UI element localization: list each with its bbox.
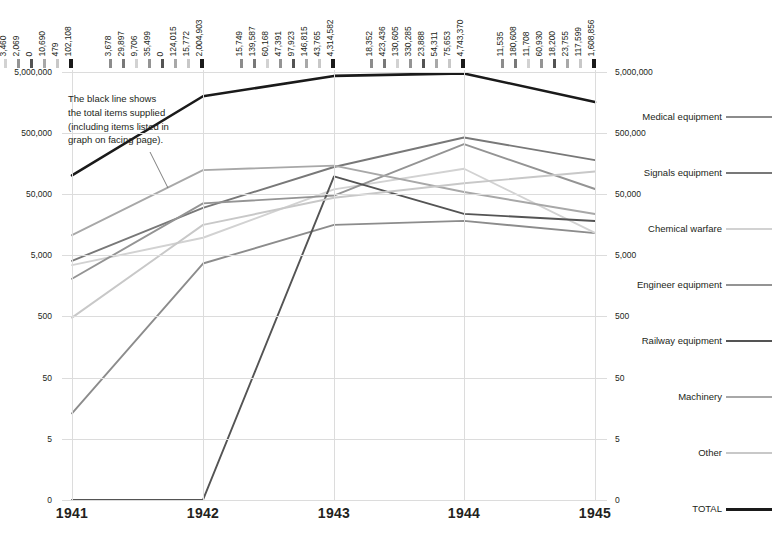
value-tick: [592, 59, 596, 68]
value-tick: [279, 59, 282, 68]
legend-swatch: [726, 396, 772, 398]
legend-label: TOTAL: [692, 502, 722, 516]
value-tick: [409, 59, 412, 68]
value-tick: [56, 59, 59, 68]
value-text: 2,069: [11, 35, 20, 56]
value-tick: [187, 59, 190, 68]
legend-item-railway-equipment[interactable]: Railway equipment: [612, 334, 774, 348]
value-text: 15,772: [181, 31, 190, 56]
year-label-1943: 1943: [318, 505, 350, 521]
y-axis-label-left: 5: [0, 434, 52, 444]
value-text: 0: [155, 51, 164, 56]
legend-item-other[interactable]: Other: [612, 446, 774, 460]
legend-item-machinery[interactable]: Machinery: [612, 390, 774, 404]
legend-label: Medical equipment: [642, 110, 722, 124]
value-tick: [579, 59, 582, 68]
value-tick: [69, 59, 73, 68]
legend-swatch: [726, 452, 772, 454]
value-cell: 102,108: [65, 0, 78, 70]
value-text: 15,749: [234, 31, 243, 56]
y-axis-label-left: 0: [0, 495, 52, 505]
legend-item-medical-equipment[interactable]: Medical equipment: [612, 110, 774, 124]
value-text: 23,755: [560, 31, 569, 56]
value-text: 117,599: [573, 27, 582, 56]
value-tick: [109, 59, 112, 68]
value-text: 180,608: [508, 26, 517, 56]
year-label-1941: 1941: [56, 505, 88, 521]
value-tick: [566, 59, 569, 68]
y-axis-label-left: 50,000: [0, 189, 52, 199]
legend-swatch: [726, 284, 772, 286]
legend-swatch: [726, 172, 772, 174]
legend-item-chemical-warfare[interactable]: Chemical warfare: [612, 222, 774, 236]
value-text: 97,923: [286, 31, 295, 56]
value-tick: [383, 59, 386, 68]
value-text: 43,765: [312, 31, 321, 56]
legend-label: Signals equipment: [644, 166, 722, 180]
value-text: 479: [50, 42, 59, 56]
value-text: 9,706: [129, 35, 138, 56]
y-axis-label-left: 5,000: [0, 250, 52, 260]
value-tick: [540, 59, 543, 68]
x-gridline: [595, 70, 596, 500]
y-axis-label-left: 500,000: [0, 128, 52, 138]
value-cell: 2,069: [13, 0, 26, 70]
value-tick: [174, 59, 177, 68]
value-column-1945: 11,535180,60811,70860,93018,20023,755117…: [497, 0, 601, 70]
value-text: 60,930: [534, 31, 543, 56]
value-tick: [422, 59, 425, 68]
value-tick: [370, 59, 373, 68]
value-text: 423,436: [377, 26, 386, 56]
value-text: 4,314,582: [325, 19, 334, 56]
annotation-line: (including items listed in: [68, 120, 236, 134]
legend-item-total[interactable]: TOTAL: [612, 502, 774, 516]
annotation-line: graph on facing page).: [68, 133, 236, 147]
legend-label: Other: [698, 446, 722, 460]
value-text: 139,587: [247, 26, 256, 56]
value-text: 1,608,856: [586, 19, 595, 56]
value-text: 23,888: [416, 31, 425, 56]
value-text: 11,708: [521, 31, 530, 56]
value-text: 60,168: [260, 31, 269, 56]
value-cell: 1,608,856: [588, 0, 601, 70]
value-text: 18,352: [364, 31, 373, 56]
value-tick: [240, 59, 243, 68]
value-text: 146,815: [299, 26, 308, 56]
value-tick: [135, 59, 138, 68]
value-tick: [253, 59, 256, 68]
value-cell: 4,314,582: [327, 0, 340, 70]
legend-label: Railway equipment: [642, 334, 722, 348]
legend-item-engineer-equipment[interactable]: Engineer equipment: [612, 278, 774, 292]
annotation-line: The black line shows: [68, 92, 236, 106]
value-text: 54,311: [429, 31, 438, 56]
value-text: 102,108: [63, 26, 72, 56]
value-tick: [161, 59, 164, 68]
value-text: 0: [24, 51, 33, 56]
value-text: 47,391: [273, 31, 282, 56]
value-column-1943: 15,749139,58760,16847,39197,923146,81543…: [236, 0, 340, 70]
legend-label: Engineer equipment: [637, 278, 722, 292]
x-gridline: [464, 70, 465, 500]
value-tick: [527, 59, 530, 68]
value-text: 2,004,903: [194, 19, 203, 56]
value-cell: 35,499: [144, 0, 157, 70]
legend-swatch: [726, 508, 772, 511]
value-tick: [200, 59, 204, 68]
value-tick: [435, 59, 438, 68]
value-tick: [148, 59, 151, 68]
value-tick: [292, 59, 295, 68]
value-tick: [266, 59, 269, 68]
value-text: 75,653: [442, 31, 451, 56]
year-label-1944: 1944: [448, 505, 480, 521]
value-tick: [461, 59, 465, 68]
legend: Medical equipmentSignals equipmentChemic…: [612, 70, 774, 510]
legend-swatch: [726, 228, 772, 230]
value-text: 3,460: [0, 35, 7, 56]
value-tick: [514, 59, 517, 68]
legend-item-signals-equipment[interactable]: Signals equipment: [612, 166, 774, 180]
legend-swatch: [726, 340, 772, 342]
value-tick: [305, 59, 308, 68]
value-tick: [553, 59, 556, 68]
year-label-1942: 1942: [187, 505, 219, 521]
value-column-1944: 18,352423,436130,605330,28523,88854,3117…: [366, 0, 470, 70]
